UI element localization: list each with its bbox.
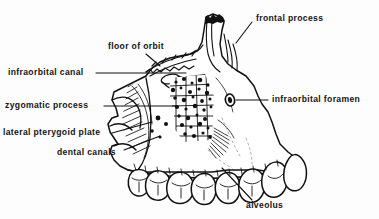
label-floor-of-orbit: floor of orbit (108, 42, 164, 51)
label-infraorbital-foramen: infraorbital foramen (272, 95, 360, 104)
tooth-incisor-central (284, 155, 307, 191)
label-infraorbital-canal: infraorbital canal (8, 68, 84, 77)
label-lateral-pterygoid-plate: lateral pterygoid plate (3, 128, 100, 137)
anatomical-figure-maxilla: frontal process floor of orbit infraorbi… (0, 0, 379, 219)
label-dental-canals: dental canals (57, 148, 116, 157)
tooth-molar-1 (167, 172, 194, 203)
label-frontal-process: frontal process (256, 14, 323, 23)
leader-frontal-process (236, 22, 252, 43)
label-alveolus: alveolus (246, 201, 283, 210)
label-zygomatic-process: zygomatic process (5, 101, 88, 110)
